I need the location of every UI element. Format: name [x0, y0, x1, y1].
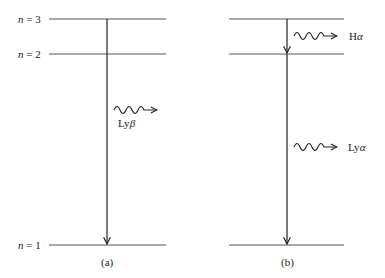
panel-b: Hα Lyα (b): [229, 19, 366, 269]
level-label-n1: n = 1: [18, 239, 41, 251]
panel-a: n = 3 n = 2 n = 1 Lyβ (a): [18, 13, 166, 269]
panel-caption-a: (a): [101, 256, 114, 269]
photon-label-ly-beta: Lyβ: [118, 117, 136, 129]
photon-wave-icon: [114, 107, 157, 114]
level-label-n3: n = 3: [18, 13, 41, 25]
photon-label-ly-alpha: Lyα: [348, 141, 366, 153]
photon-wave-icon-ly-alpha: [294, 144, 337, 151]
panel-caption-b: (b): [281, 256, 294, 269]
level-label-n2: n = 2: [18, 48, 41, 60]
photon-wave-icon-h-alpha: [294, 33, 337, 40]
photon-label-h-alpha: Hα: [349, 30, 363, 42]
